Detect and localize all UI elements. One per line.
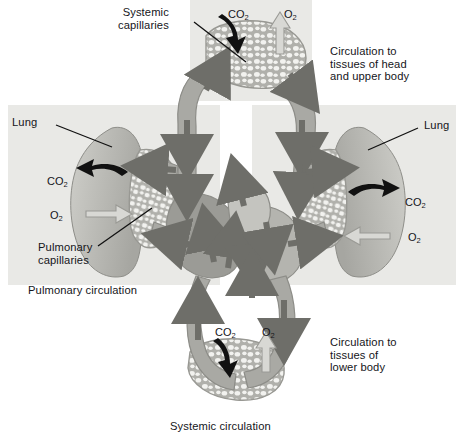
co2-right-lung: CO2 (405, 196, 426, 208)
flow-arrow-4 (299, 164, 300, 190)
co2-bottom-systemic: CO2 (215, 326, 236, 338)
label-pulmonary-capillaries: Pulmonary capillaries (38, 241, 92, 266)
flow-arrow-7 (306, 170, 330, 172)
flow-arrow-12 (266, 222, 270, 246)
o2-top-systemic: O2 (284, 8, 297, 20)
flow-arrow-5 (150, 168, 176, 170)
flow-arrow-11 (250, 236, 252, 262)
o2-left-lung: O2 (50, 209, 63, 221)
o2-right-lung: O2 (408, 231, 421, 243)
flow-arrow-10 (228, 240, 232, 268)
label-systemic-capillaries: Systemic capillaries (118, 6, 169, 31)
flow-arrow-8 (288, 240, 314, 244)
co2-left-lung: CO2 (47, 175, 68, 187)
co2-top-systemic: CO2 (228, 8, 249, 20)
circulation-diagram: Systemic capillaries Circulation to tiss… (0, 0, 476, 448)
label-circulation-head: Circulation to tissues of head and upper… (330, 45, 409, 83)
label-circulation-lower: Circulation to tissues of lower body (330, 336, 397, 374)
o2-bottom-systemic: O2 (262, 326, 275, 338)
label-lung-right: Lung (424, 119, 449, 132)
label-pulmonary-circulation: Pulmonary circulation (28, 284, 137, 297)
label-systemic-circulation: Systemic circulation (170, 420, 271, 433)
label-lung-left: Lung (12, 116, 37, 129)
